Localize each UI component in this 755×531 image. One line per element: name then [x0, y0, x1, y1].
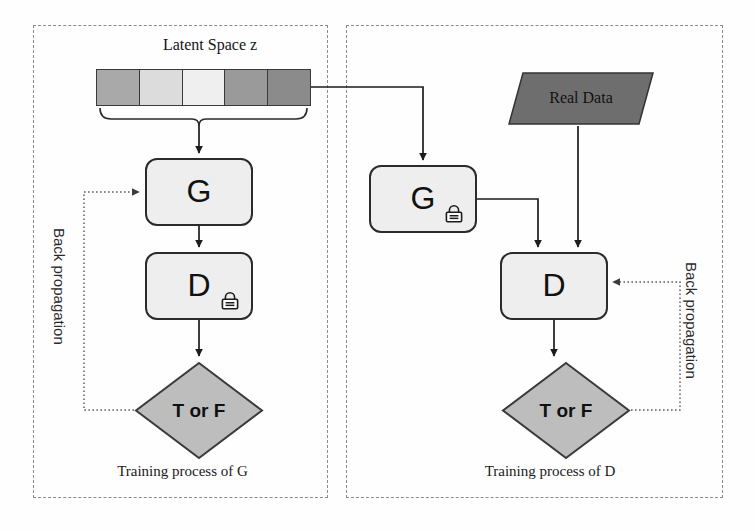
- real-data-node: Real Data: [507, 71, 655, 126]
- output-diamond-left: T or F: [134, 361, 264, 460]
- discriminator-label-right: D: [502, 267, 606, 304]
- latent-cell-1: [97, 70, 140, 105]
- panel-caption-right: Training process of D: [455, 463, 645, 480]
- discriminator-box-right: D: [500, 252, 608, 320]
- lock-icon: [443, 203, 465, 225]
- backprop-label-left: Back propagation: [51, 228, 68, 345]
- latent-cell-3: [183, 70, 226, 105]
- latent-cell-2: [140, 70, 183, 105]
- latent-cell-5: [268, 70, 310, 105]
- generator-label-left: G: [147, 173, 251, 210]
- generator-box-left: G: [145, 158, 253, 226]
- lock-icon: [219, 290, 241, 312]
- backprop-label-right: Back propagation: [683, 262, 700, 379]
- latent-cell-4: [225, 70, 268, 105]
- discriminator-box-left: D: [145, 252, 253, 320]
- latent-space-title: Latent Space z: [110, 36, 310, 54]
- diagram-canvas: Latent Space z G D G: [0, 0, 755, 531]
- panel-caption-left: Training process of G: [95, 463, 270, 480]
- generator-box-right: G: [369, 165, 477, 233]
- output-diamond-right: T or F: [501, 361, 631, 460]
- latent-space-vector: [96, 69, 311, 106]
